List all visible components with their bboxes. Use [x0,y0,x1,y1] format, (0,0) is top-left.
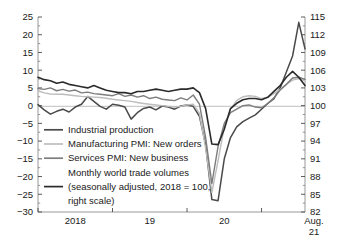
left-tick-label: 15 [22,47,33,58]
right-tick-label: 103 [310,82,326,93]
left-tick-label: −15 [17,153,33,164]
legend-label: Services PMI: New business [68,152,189,163]
legend-label: (seasonally adjusted, 2018 = 100, [68,181,210,192]
left-tick-label: 25 [22,11,33,22]
right-tick-label: 85 [310,189,321,200]
right-tick-label: 106 [310,65,326,76]
left-tick-label: 5 [28,82,33,93]
left-tick-label: −10 [17,135,33,146]
x-axis-year-label: 20 [219,215,230,226]
left-tick-label: 20 [22,29,33,40]
legend-label: Industrial production [68,124,154,135]
right-tick-label: 97 [310,118,321,129]
legend-label: Manufacturing PMI: New orders [68,138,202,149]
right-tick-label: 100 [310,100,326,111]
left-tick-label: 0 [28,100,33,111]
right-tick-label: 115 [310,11,325,22]
x-axis-year-label: 2018 [65,215,86,226]
x-axis-year-label: 19 [144,215,155,226]
right-tick-label: 112 [310,29,325,40]
chart-legend: Industrial productionManufacturing PMI: … [44,124,210,206]
legend-label: Monthly world trade volumes [68,167,189,178]
right-tick-label: 88 [310,171,321,182]
right-tick-label: 91 [310,153,321,164]
chart-container: 2520151050−5−10−15−20−25−30 115112109106… [0,0,344,252]
left-tick-label: −20 [17,171,33,182]
x-axis-end-label-year: 21 [309,226,320,237]
left-tick-label: −30 [17,206,33,217]
right-tick-label: 94 [310,135,321,146]
left-tick-label: −5 [22,118,33,129]
right-tick-label: 109 [310,47,326,58]
x-axis-end-label-month: Aug. [304,215,324,226]
left-tick-label: −25 [17,189,33,200]
line-chart-svg: 2520151050−5−10−15−20−25−30 115112109106… [0,0,344,252]
legend-label: right scale) [68,195,114,206]
left-tick-label: 10 [22,65,33,76]
